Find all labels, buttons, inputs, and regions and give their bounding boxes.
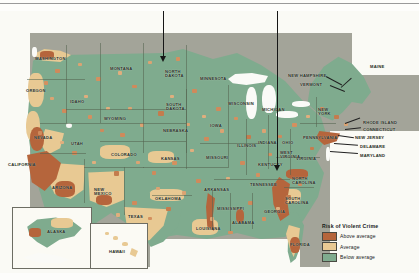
state-label-florida: FLORIDA xyxy=(290,243,310,248)
state-label-pennsylvania: PENNSYLVANIA xyxy=(303,136,337,141)
state-label-mississippi: MISSISSIPPI xyxy=(217,207,244,212)
state-label-north-dakota: NORTHDAKOTA xyxy=(165,70,184,79)
legend-label-below-average: Below average xyxy=(340,254,375,260)
state-label-maryland: MARYLAND xyxy=(360,154,385,159)
ocean-gulf xyxy=(150,239,300,273)
legend-swatch-above-average xyxy=(322,232,337,241)
state-label-north-carolina: NORTHCAROLINA xyxy=(292,177,316,186)
hawaii-island-oahu xyxy=(113,236,118,240)
paper-top xyxy=(0,11,419,33)
state-label-alabama: ALABAMA xyxy=(232,221,254,226)
state-label-illinois: ILLINOIS xyxy=(237,144,256,149)
state-label-idaho: IDAHO xyxy=(70,100,84,105)
alaska-zone-average xyxy=(51,218,73,228)
state-label-indiana: INDIANA xyxy=(258,141,277,146)
state-label-montana: MONTANA xyxy=(110,67,132,72)
map-legend: Risk of Violent Crime Above average Aver… xyxy=(322,223,414,263)
lake-ontario xyxy=(292,101,310,107)
legend-row-average: Average xyxy=(322,242,414,251)
state-label-vermont: VERMONT xyxy=(300,83,322,88)
state-label-utah: UTAH xyxy=(71,142,83,147)
legend-swatch-below-average xyxy=(322,253,337,262)
state-label-wisconsin: WISCONSIN xyxy=(228,102,254,107)
state-label-nebraska: NEBRASKA xyxy=(163,129,188,134)
state-label-michigan: MICHIGAN xyxy=(262,108,285,113)
state-label-texas: TEXAS xyxy=(128,215,143,220)
us-crime-risk-map: WASHINGTONOREGONIDAHOMONTANANORTHDAKOTAS… xyxy=(0,11,419,273)
state-label-new-york: NEWYORK xyxy=(318,108,331,117)
hawaii-island-big xyxy=(129,248,138,257)
state-label-california: CALIFORNIA xyxy=(8,163,36,168)
state-label-maine: MAINE xyxy=(370,65,384,70)
state-label-nevada: NEVADA xyxy=(34,136,52,141)
inset-alaska: ALASKA xyxy=(12,207,92,269)
chesapeake-bay xyxy=(326,147,330,161)
state-label-tennessee: TENNESSEE xyxy=(250,183,277,188)
alaska-aleutian-water xyxy=(23,248,75,264)
screenshot-root: WASHINGTONOREGONIDAHOMONTANANORTHDAKOTAS… xyxy=(0,0,419,280)
state-label-oregon: OREGON xyxy=(26,89,46,94)
state-label-rhode-island: RHODE ISLAND xyxy=(363,121,397,126)
inset-hawaii: HAWAII xyxy=(90,223,148,269)
state-label-wyoming: WYOMING xyxy=(104,117,126,122)
state-label-connecticut: CONNECTICUT xyxy=(363,128,396,133)
state-label-kansas: KANSAS xyxy=(161,157,180,162)
state-label-ohio: OHIO xyxy=(282,141,293,146)
state-label-iowa: IOWA xyxy=(210,124,222,129)
state-label-oklahoma: OKLAHOMA xyxy=(155,197,181,202)
hawaii-island-maui xyxy=(122,242,128,246)
state-label-delaware: DELAWARE xyxy=(360,145,385,150)
ocean-northeast xyxy=(352,33,419,75)
alaska-zone-above xyxy=(29,228,41,237)
state-label-south-carolina: SOUTHCAROLINA xyxy=(285,197,309,206)
state-label-arizona: ARIZONA xyxy=(52,186,72,191)
state-label-new-mexico: NEWMEXICO xyxy=(94,188,112,197)
state-label-new-hampshire: NEW HAMPSHIRE xyxy=(288,74,327,79)
state-label-arkansas: ARKANSAS xyxy=(204,188,229,193)
legend-title: Risk of Violent Crime xyxy=(322,223,414,229)
state-label-louisiana: LOUISIANA xyxy=(196,227,221,232)
state-label-georgia: GEORGIA xyxy=(264,210,285,215)
legend-row-above-average: Above average xyxy=(322,232,414,241)
legend-swatch-average xyxy=(322,242,337,251)
state-label-new-jersey: NEW JERSEY xyxy=(355,136,384,141)
state-label-washington: WASHINGTON xyxy=(35,57,66,62)
state-label-south-dakota: SOUTHDAKOTA xyxy=(166,103,185,112)
state-label-west-virginia: WESTVIRGINIA xyxy=(280,151,300,160)
inset-label-alaska: ALASKA xyxy=(47,230,66,235)
state-label-missouri: MISSOURI xyxy=(206,156,228,161)
state-label-minnesota: MINNESOTA xyxy=(200,77,227,82)
top-divider-rule xyxy=(0,3,419,4)
state-label-colorado: COLORADO xyxy=(111,153,137,158)
legend-row-below-average: Below average xyxy=(322,253,414,262)
legend-label-average: Average xyxy=(340,244,360,250)
hawaii-island-kauai xyxy=(105,232,109,235)
inset-label-hawaii: HAWAII xyxy=(109,250,125,255)
legend-label-above-average: Above average xyxy=(340,233,376,239)
